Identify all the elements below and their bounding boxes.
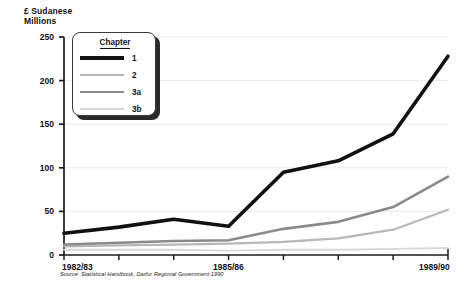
legend-swatch-series-3b	[80, 108, 124, 110]
y-axis-tick-label: 250	[20, 32, 54, 42]
legend-item-3b: 3b	[80, 102, 150, 116]
y-axis-tick-label: 0	[20, 250, 54, 260]
legend-item-2: 2	[80, 68, 150, 82]
chart-legend: Chapter 1 2 3a 3b	[72, 32, 156, 116]
y-axis-tick-label: 50	[20, 206, 54, 216]
series-line-3b	[64, 248, 448, 251]
y-axis-tick-label: 150	[20, 119, 54, 129]
plot-area	[0, 0, 468, 291]
legend-label-series-3a: 3a	[132, 88, 141, 97]
y-axis-tick-label: 200	[20, 76, 54, 86]
x-axis-tick-label: 1989/90	[419, 262, 450, 272]
legend-label-series-3b: 3b	[132, 105, 142, 114]
legend-swatch-series-1	[80, 56, 124, 60]
legend-label-series-2: 2	[132, 71, 137, 80]
y-axis-tick-label: 100	[20, 163, 54, 173]
legend-item-1: 1	[80, 51, 150, 65]
legend-title-text: Chapter	[100, 38, 131, 49]
source-note: Source: Statistical Handbook, Darfur Reg…	[60, 271, 224, 277]
legend-title: Chapter	[73, 38, 157, 47]
legend-swatch-series-2	[80, 74, 124, 76]
legend-label-series-1: 1	[132, 54, 137, 63]
series-line-3a	[64, 177, 448, 245]
line-chart: £ Sudanese Millions Chapter 1 2 3a 3b 05…	[0, 0, 468, 291]
legend-item-3a: 3a	[80, 85, 150, 99]
legend-swatch-series-3a	[80, 91, 124, 94]
